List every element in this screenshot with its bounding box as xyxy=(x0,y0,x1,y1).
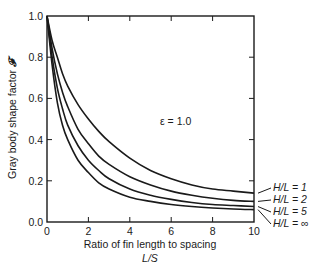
legend-label: H/L = 5 xyxy=(273,205,307,217)
x-tick-label: 8 xyxy=(210,225,216,237)
shape-factor-chart: 02468100.00.20.40.60.81.0 H/L = 1H/L = 2… xyxy=(0,0,325,268)
plot-frame xyxy=(47,16,254,222)
x-tick-label: 6 xyxy=(168,225,174,237)
x-axis-title: Ratio of fin length to spacing xyxy=(84,238,217,250)
data-curves xyxy=(47,16,254,210)
y-tick-label: 0.0 xyxy=(28,216,43,228)
legend-labels: H/L = 1H/L = 2H/L = 5H/L = ∞ xyxy=(258,181,309,229)
x-tick-label: 4 xyxy=(127,225,133,237)
leader-line xyxy=(258,210,271,224)
y-tick-label: 0.2 xyxy=(28,175,43,187)
y-axis-title: Gray body shape factor 𝓕 xyxy=(6,55,18,179)
x-tick-label: 2 xyxy=(85,225,91,237)
leader-line xyxy=(258,200,271,201)
curve-3 xyxy=(47,16,254,210)
plot-border xyxy=(47,16,254,222)
y-tick-label: 1.0 xyxy=(28,10,43,22)
curve-1 xyxy=(47,16,254,201)
y-tick-label: 0.8 xyxy=(28,51,43,63)
emissivity-annotation: ε = 1.0 xyxy=(160,115,191,127)
curve-2 xyxy=(47,16,254,207)
x-tick-label: 0 xyxy=(44,225,50,237)
y-tick-label: 0.4 xyxy=(28,134,43,146)
leader-line xyxy=(258,188,271,193)
x-tick-label: 10 xyxy=(248,225,260,237)
legend-label: H/L = 2 xyxy=(273,193,307,205)
curve-0 xyxy=(47,16,254,193)
y-tick-label: 0.6 xyxy=(28,92,43,104)
legend-label: H/L = ∞ xyxy=(273,217,309,229)
x-axis-subtitle: L/S xyxy=(142,252,158,264)
legend-label: H/L = 1 xyxy=(273,181,307,193)
axis-ticks: 02468100.00.20.40.60.81.0 xyxy=(28,10,260,237)
